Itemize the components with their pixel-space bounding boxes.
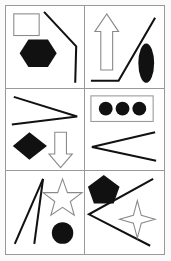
cell-5-shapes <box>6 171 84 254</box>
grid-cell-5 <box>6 171 85 254</box>
grid-cell-6 <box>85 171 164 254</box>
circle-filled <box>52 222 73 244</box>
grid-cell-2 <box>85 6 164 89</box>
down-arrow-outline <box>49 132 72 167</box>
figure-canvas <box>0 0 171 261</box>
shape-grid <box>5 5 165 255</box>
diamond-filled <box>13 132 47 160</box>
grid-cell-3 <box>6 89 85 172</box>
cell-1-shapes <box>6 6 84 88</box>
zigzag-left <box>92 132 156 161</box>
grid-cell-1 <box>6 6 85 89</box>
zigzag-right <box>12 97 77 125</box>
hexagon-filled <box>20 39 57 67</box>
circle-filled-3 <box>132 101 146 115</box>
ellipse-filled <box>138 43 154 82</box>
circle-filled-2 <box>116 101 130 115</box>
star-5-outline <box>43 179 82 215</box>
cell-3-shapes <box>6 89 84 171</box>
cell-2-shapes <box>85 6 164 88</box>
up-arrow-outline <box>95 14 119 70</box>
circle-filled-1 <box>99 101 113 115</box>
grid-cell-4 <box>85 89 164 172</box>
cell-4-shapes <box>85 89 164 171</box>
cell-6-shapes <box>85 171 164 254</box>
square-outline <box>14 14 39 36</box>
